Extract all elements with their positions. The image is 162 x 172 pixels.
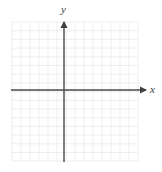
x-axis-arrowhead-icon xyxy=(140,87,147,94)
x-axis-label: x xyxy=(150,84,155,95)
coordinate-plane-figure: y x xyxy=(0,0,162,172)
y-axis-label: y xyxy=(61,4,66,15)
grid-lines xyxy=(12,22,138,161)
graph-canvas xyxy=(0,0,162,172)
